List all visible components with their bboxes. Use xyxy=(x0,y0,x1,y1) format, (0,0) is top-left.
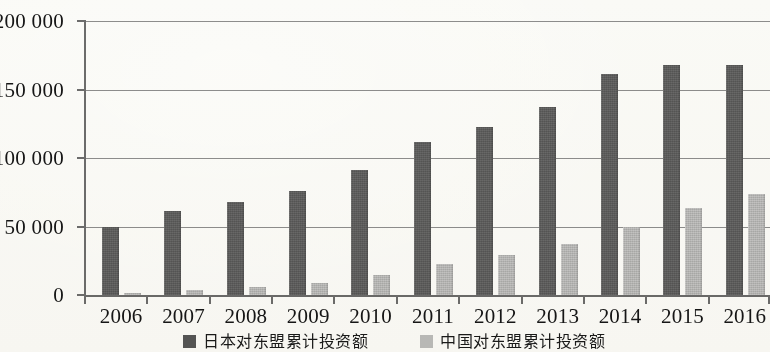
bar-group xyxy=(593,21,655,295)
x-axis-tick-label: 2008 xyxy=(225,303,268,329)
x-axis-labels: 2006200720082009201020112012201320142015… xyxy=(84,303,770,329)
bar-group xyxy=(219,21,281,295)
x-axis-tick-label: 2016 xyxy=(723,303,766,329)
bar-group xyxy=(343,21,405,295)
bar-2007-series-0 xyxy=(164,211,181,295)
x-axis-tick-label: 2013 xyxy=(536,303,579,329)
bar-2009-series-0 xyxy=(289,191,306,295)
y-axis-tick-mark xyxy=(77,89,86,91)
y-axis-tick-label: 200 000 xyxy=(0,11,74,32)
y-axis-tick-label: 50 000 xyxy=(0,216,74,237)
bar-2012-series-0 xyxy=(476,127,493,296)
y-axis-tick-label: 150 000 xyxy=(0,79,74,100)
legend-item-japan: 日本对东盟累计投资额 xyxy=(183,334,368,350)
chart-legend: 日本对东盟累计投资额 中国对东盟累计投资额 xyxy=(0,331,770,352)
bar-2006-series-0 xyxy=(102,227,119,296)
bar-group xyxy=(655,21,717,295)
bar-2015-series-1 xyxy=(685,208,702,295)
legend-label-china: 中国对东盟累计投资额 xyxy=(440,334,605,350)
bar-group xyxy=(406,21,468,295)
x-axis-tick-label: 2015 xyxy=(661,303,704,329)
bar-2008-series-0 xyxy=(227,202,244,295)
bar-series-container xyxy=(84,21,770,295)
legend-label-japan: 日本对东盟累计投资额 xyxy=(203,334,368,350)
bar-2008-series-1 xyxy=(249,287,266,295)
dark-gray-swatch-icon xyxy=(183,335,196,348)
bar-group xyxy=(156,21,218,295)
x-axis-tick-label: 2007 xyxy=(162,303,205,329)
bar-2014-series-0 xyxy=(601,74,618,295)
x-axis-tick-label: 2012 xyxy=(474,303,517,329)
y-axis-tick-mark xyxy=(77,20,86,22)
bar-2013-series-1 xyxy=(561,244,578,295)
bar-2016-series-1 xyxy=(748,194,765,295)
bar-group xyxy=(94,21,156,295)
x-axis-tick-label: 2014 xyxy=(599,303,642,329)
x-axis-tick-label: 2009 xyxy=(287,303,330,329)
bar-2013-series-0 xyxy=(539,107,556,295)
bar-chart-figure: 050 000100 000150 000200 000 20062007200… xyxy=(0,0,770,352)
plot-area xyxy=(84,21,770,295)
bar-2012-series-1 xyxy=(498,255,515,295)
y-axis-tick-mark xyxy=(77,226,86,228)
x-axis-tick-label: 2010 xyxy=(349,303,392,329)
y-axis-tick-mark xyxy=(77,157,86,159)
y-axis-labels: 050 000100 000150 000200 000 xyxy=(0,0,74,352)
x-axis-tick-label: 2006 xyxy=(100,303,143,329)
bar-2010-series-0 xyxy=(351,170,368,295)
bar-2015-series-0 xyxy=(663,65,680,295)
bar-2011-series-1 xyxy=(436,264,453,295)
bar-group xyxy=(281,21,343,295)
bar-group xyxy=(718,21,770,295)
y-axis-tick-label: 0 xyxy=(0,285,74,306)
y-axis-tick-label: 100 000 xyxy=(0,148,74,169)
bar-group xyxy=(531,21,593,295)
x-axis-tick-label: 2011 xyxy=(412,303,454,329)
bar-2009-series-1 xyxy=(311,283,328,295)
bar-group xyxy=(468,21,530,295)
legend-item-china: 中国对东盟累计投资额 xyxy=(420,334,605,350)
light-gray-swatch-icon xyxy=(420,335,433,348)
bar-2010-series-1 xyxy=(373,275,390,295)
bar-2014-series-1 xyxy=(623,227,640,295)
bar-2016-series-0 xyxy=(726,65,743,295)
bar-2011-series-0 xyxy=(414,142,431,295)
